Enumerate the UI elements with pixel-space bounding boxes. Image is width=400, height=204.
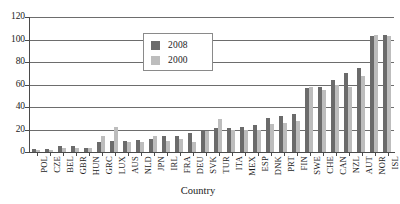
- bar-DEU-2000: [192, 142, 196, 152]
- y-tick-label-40: 40: [16, 102, 25, 112]
- x-tick-label-CHE: CHE: [326, 156, 335, 174]
- x-tick-label-BEL: BEL: [66, 156, 75, 173]
- bar-group-POL: [32, 17, 41, 152]
- y-tick-label-120: 120: [11, 12, 25, 22]
- bar-CAN-2000: [335, 85, 339, 153]
- bar-group-FIN: [292, 17, 301, 152]
- bar-group-LUX: [110, 17, 119, 152]
- bar-group-TUR: [214, 17, 223, 152]
- bar-JPN-2000: [153, 136, 157, 152]
- bar-FIN-2000: [296, 121, 300, 153]
- legend-entry-2008: 2008: [151, 38, 212, 53]
- x-tick-label-JPN: JPN: [157, 156, 166, 171]
- bar-NLD-2000: [140, 142, 144, 152]
- bar-group-CHE: [318, 17, 327, 152]
- y-axis-tick-labels: 120100806040200: [0, 0, 28, 204]
- chart-legend: 2008 2000: [143, 33, 213, 71]
- bar-group-DNK: [266, 17, 275, 152]
- x-tick-label-DNK: DNK: [274, 156, 283, 175]
- bar-FRA-2000: [179, 139, 183, 153]
- bar-group-GRC: [97, 17, 106, 152]
- x-tick-label-CZE: CZE: [53, 156, 62, 173]
- y-tick-label-100: 100: [11, 35, 25, 45]
- bar-NOR-2000: [374, 35, 378, 152]
- bar-PRT-2000: [283, 123, 287, 152]
- x-tick-label-SVK: SVK: [209, 156, 218, 174]
- x-axis-title: Country: [0, 185, 396, 197]
- bar-CHE-2000: [322, 90, 326, 152]
- bar-ITA-2000: [231, 130, 235, 153]
- legend-label-2008: 2008: [168, 41, 188, 51]
- bar-group-NOR: [370, 17, 379, 152]
- bar-group-SWE: [305, 17, 314, 152]
- bar-group-AUT: [357, 17, 366, 152]
- x-tick-label-SWE: SWE: [313, 156, 322, 175]
- bar-group-ITA: [227, 17, 236, 152]
- x-tick-label-FRA: FRA: [183, 156, 192, 173]
- bar-group-NZL: [344, 17, 353, 152]
- x-tick-label-NZL: NZL: [352, 156, 361, 173]
- x-tick-label-IRL: IRL: [170, 156, 179, 170]
- bar-group-GBR: [71, 17, 80, 152]
- bar-IRL-2000: [166, 141, 170, 152]
- x-tick-label-LUX: LUX: [118, 156, 127, 174]
- x-tick-label-MEX: MEX: [248, 156, 257, 176]
- bar-LUX-2000: [114, 127, 118, 152]
- legend-entry-2000: 2000: [151, 53, 212, 68]
- bar-group-BEL: [58, 17, 67, 152]
- x-axis-tick-labels: POLCZEBELGBRHUNGRCLUXAUSNLDJPNIRLFRADEUS…: [30, 156, 394, 184]
- x-tick-label-FIN: FIN: [300, 156, 309, 170]
- bar-TUR-2000: [218, 119, 222, 152]
- bar-SWE-2000: [309, 87, 313, 152]
- y-tick-label-20: 20: [16, 125, 25, 135]
- bar-DNK-2000: [270, 124, 274, 152]
- bar-group-AUS: [123, 17, 132, 152]
- x-tick-label-NLD: NLD: [144, 156, 153, 174]
- x-tick-label-GRC: GRC: [105, 156, 114, 174]
- x-tick-label-GBR: GBR: [79, 156, 88, 174]
- x-tick-label-ESP: ESP: [261, 156, 270, 171]
- bar-group-CZE: [45, 17, 54, 152]
- bar-group-ISL: [383, 17, 392, 152]
- x-tick-label-DEU: DEU: [196, 156, 205, 174]
- legend-label-2000: 2000: [168, 56, 188, 66]
- x-tick-label-HUN: HUN: [92, 156, 101, 175]
- x-tick-label-PRT: PRT: [287, 156, 296, 172]
- x-tick-label-ITA: ITA: [235, 156, 244, 170]
- x-tick-label-POL: POL: [40, 156, 49, 173]
- bar-SVK-2000: [205, 131, 209, 152]
- bar-group-MEX: [240, 17, 249, 152]
- x-tick-label-AUT: AUT: [365, 156, 374, 174]
- y-tick-label-60: 60: [16, 80, 25, 90]
- bar-group-PRT: [279, 17, 288, 152]
- x-tick-label-NOR: NOR: [378, 156, 387, 175]
- bar-group-HUN: [84, 17, 93, 152]
- bar-ESP-2000: [257, 130, 261, 153]
- bar-ISL-2000: [387, 36, 391, 152]
- bar-group-CAN: [331, 17, 340, 152]
- legend-swatch-2008-icon: [151, 41, 160, 50]
- x-tick-label-TUR: TUR: [222, 156, 231, 174]
- legend-swatch-2000-icon: [151, 56, 160, 65]
- bar-NZL-2000: [348, 87, 352, 152]
- x-tick-label-CAN: CAN: [339, 156, 348, 175]
- bar-AUT-2000: [361, 76, 365, 153]
- bar-AUS-2000: [127, 142, 131, 152]
- bar-MEX-2000: [244, 130, 248, 153]
- bar-group-ESP: [253, 17, 262, 152]
- bar-GRC-2000: [101, 136, 105, 152]
- x-tick-label-ISL: ISL: [391, 156, 400, 170]
- x-tick-label-AUS: AUS: [131, 156, 140, 174]
- y-tick-label-80: 80: [16, 57, 25, 67]
